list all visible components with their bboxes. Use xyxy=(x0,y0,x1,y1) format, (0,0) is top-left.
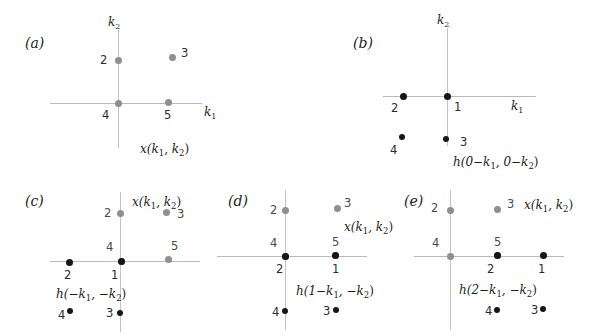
panel-e-h-point-4-label: 4 xyxy=(485,306,492,318)
panel-b-point-4 xyxy=(399,134,405,140)
panel-b-k2-axis xyxy=(447,28,448,146)
panel-b-point-3-label: 3 xyxy=(460,137,467,149)
panel-e-h-point-3 xyxy=(540,306,546,312)
panel-e-h-point-2-label: 2 xyxy=(487,264,494,276)
panel-b-caption-p5: ) xyxy=(534,155,539,169)
panel-c-caption-x: x(k1, k2) xyxy=(132,196,181,211)
panel-b-k1-axis-label: k1 xyxy=(511,100,523,115)
panel-a-point-3-label: 3 xyxy=(181,48,188,60)
panel-d-h-point-4 xyxy=(282,308,288,314)
panel-a-k2-axis-label: k2 xyxy=(108,16,120,31)
panel-e-x-point-3-label: 3 xyxy=(507,199,514,211)
panel-c-caption-h-p1: h( xyxy=(56,287,68,301)
panel-a-point-5-label: 5 xyxy=(164,110,171,122)
panel-c-h-point-1 xyxy=(118,258,125,265)
panel-c-tag: (c) xyxy=(25,194,44,208)
panel-a-caption-p2: , k xyxy=(164,142,179,156)
panel-c-caption-h-p3: , xyxy=(91,287,99,301)
panel-b-k1-axis-label-sub: 1 xyxy=(518,106,523,115)
panel-c-h-point-2-label: 2 xyxy=(64,270,71,282)
panel-e-caption-x-p2: , k xyxy=(548,198,563,212)
panel-c-x-point-3 xyxy=(163,209,170,216)
panel-d-caption-x-p2: , k xyxy=(368,220,383,234)
panel-b-point-1-label: 1 xyxy=(454,102,461,114)
panel-d-h-point-2-label: 2 xyxy=(276,264,283,276)
panel-b-point-2-label: 2 xyxy=(391,103,398,115)
panel-a-tag: (a) xyxy=(25,36,44,50)
panel-a-caption-p1: x(k xyxy=(140,142,159,156)
panel-a-k1-axis-label-sub: 1 xyxy=(211,112,216,121)
panel-c-x-point-2-label: 2 xyxy=(104,208,111,220)
panel-c-x-point-2 xyxy=(117,210,124,217)
panel-e-x-point-2-label: 2 xyxy=(431,203,438,215)
panel-d-k1-axis xyxy=(217,256,367,257)
panel-a-caption-p3: ) xyxy=(184,142,189,156)
panel-c-caption-h-p2: −k xyxy=(68,287,85,301)
panel-d-h-point-3-label: 3 xyxy=(323,306,330,318)
panel-e-x-point-4 xyxy=(447,253,454,260)
panel-a-point-2 xyxy=(115,57,122,64)
panel-a-point-3 xyxy=(169,54,176,61)
panel-e-x-point-2 xyxy=(447,207,454,214)
panel-b-point-3 xyxy=(443,136,449,142)
panel-e-caption-x-p3: ) xyxy=(568,198,573,212)
panel-e-caption-h-p2: −k xyxy=(479,283,496,297)
panel-d-caption-x-p1: x(k xyxy=(344,220,363,234)
panel-a-k1-axis-label: k1 xyxy=(204,106,216,121)
panel-c-x-point-5-label: 5 xyxy=(171,241,178,253)
panel-e-caption-h: h(2−k1, −k2) xyxy=(459,284,537,299)
panel-d-x-point-2-label: 2 xyxy=(270,205,277,217)
panel-e-h-point-1 xyxy=(540,252,547,259)
panel-d-x-point-3-label: 3 xyxy=(344,198,351,210)
panel-e-h-point-2 xyxy=(494,252,501,259)
panel-d-caption-x-p3: ) xyxy=(388,220,393,234)
panel-a-caption: x(k1, k2) xyxy=(140,143,189,158)
panel-b-caption-p4: −k xyxy=(511,155,528,169)
panel-a-k2-axis xyxy=(118,30,119,148)
panel-e-h-point-3-label: 3 xyxy=(531,305,538,317)
panel-d-x-point-4-label: 4 xyxy=(270,238,277,250)
panel-d-x-point-5-label: 5 xyxy=(332,237,339,249)
panel-a-k1-axis xyxy=(50,103,202,104)
panel-b-k2-axis-label-sub: 2 xyxy=(444,20,449,29)
panel-c-h-point-3-label: 3 xyxy=(106,308,113,320)
panel-c-x-point-3-label: 3 xyxy=(177,209,184,221)
panel-b-caption-p3: , 0 xyxy=(496,155,511,169)
panel-d-tag: (d) xyxy=(228,194,248,208)
panel-e-caption-h-p5: ) xyxy=(532,283,537,297)
panel-c-h-point-2 xyxy=(66,259,73,266)
panel-c-caption-h-p5: ) xyxy=(122,287,127,301)
panel-c-k1-axis xyxy=(50,261,200,262)
panel-c-caption-x-p2: , k xyxy=(156,195,171,209)
panel-b-point-1 xyxy=(444,93,451,100)
panel-d-caption-h-p5: ) xyxy=(369,284,374,298)
panel-b-caption-p2: −k xyxy=(473,155,490,169)
panel-c-h-point-4 xyxy=(67,308,73,314)
panel-e-x-point-5-label: 5 xyxy=(494,237,501,249)
panel-d-h-point-3 xyxy=(333,307,339,313)
panel-c-h-point-3 xyxy=(117,310,123,316)
panel-a-point-4 xyxy=(115,100,122,107)
panel-b-point-4-label: 4 xyxy=(390,145,397,157)
panel-c-caption-x-p1: x(k xyxy=(132,195,151,209)
panel-e-caption-h-p4: −k xyxy=(509,283,526,297)
panel-d-x-point-3 xyxy=(334,205,341,212)
panel-c-x-point-5 xyxy=(165,256,172,263)
panel-d-caption-h: h(1−k1, −k2) xyxy=(296,285,374,300)
panel-a-point-2-label: 2 xyxy=(100,55,107,67)
panel-e-caption-x-p1: x(k xyxy=(524,198,543,212)
panel-a-point-5 xyxy=(165,99,172,106)
panel-b-caption-p1: h(0 xyxy=(453,155,473,169)
panel-b-k2-axis-label: k2 xyxy=(437,14,449,29)
panel-e-h-point-4 xyxy=(494,307,500,313)
panel-b-tag: (b) xyxy=(353,36,373,50)
panel-e-h-point-1-label: 1 xyxy=(538,264,545,276)
figure-canvas: (a) k2 k1 2 3 4 5 x(k1, k2) (b) k2 k1 xyxy=(0,0,591,336)
panel-e-caption-x: x(k1, k2) xyxy=(524,199,573,214)
panel-a-point-4-label: 4 xyxy=(102,110,109,122)
panel-d-caption-h-p4: −k xyxy=(346,284,363,298)
panel-c-x-point-4-label: 4 xyxy=(106,242,113,254)
panel-e-caption-h-p1: h(2 xyxy=(459,283,479,297)
panel-b-caption: h(0−k1, 0−k2) xyxy=(453,156,539,171)
panel-d-caption-h-p2: −k xyxy=(316,284,333,298)
